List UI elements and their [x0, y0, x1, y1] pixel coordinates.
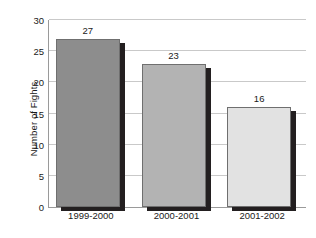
- x-axis-tick-label: 1999-2000: [48, 210, 134, 221]
- bar-group[interactable]: 27: [56, 20, 120, 207]
- y-axis-tick-label: 10: [24, 139, 44, 150]
- y-axis-tick-labels: 051015202530: [22, 0, 44, 238]
- x-axis-tick-label: 2001-2002: [219, 210, 305, 221]
- bar-value-label: 27: [56, 25, 120, 36]
- x-axis-tick-labels: 1999-20002000-20012001-2002: [48, 210, 305, 228]
- x-axis-tick-label: 2000-2001: [134, 210, 220, 221]
- plot-area: 272316: [48, 20, 306, 208]
- y-axis-tick-label: 25: [24, 46, 44, 57]
- y-axis-tick-label: 20: [24, 77, 44, 88]
- bar[interactable]: [142, 64, 206, 207]
- bar-group[interactable]: 16: [227, 20, 291, 207]
- y-axis-tick-label: 30: [24, 15, 44, 26]
- bar[interactable]: [56, 39, 120, 207]
- y-axis-tick-label: 15: [24, 108, 44, 119]
- bars-group: 272316: [49, 20, 306, 207]
- bar-value-label: 23: [142, 50, 206, 61]
- bar-group[interactable]: 23: [142, 20, 206, 207]
- y-axis-tick-label: 0: [24, 202, 44, 213]
- bar[interactable]: [227, 107, 291, 207]
- bar-value-label: 16: [227, 93, 291, 104]
- bar-chart: Number of Fights 051015202530 272316 199…: [0, 0, 316, 238]
- y-axis-tick-label: 5: [24, 170, 44, 181]
